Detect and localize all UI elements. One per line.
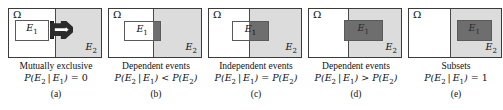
- caption-c: Independent eventsP(E2 | E1) = P(E2)(c): [208, 61, 304, 101]
- event-e1-box-b: E1: [124, 21, 161, 41]
- caption-d: Dependent eventsP(E2 | E1) > P(E2)(d): [308, 61, 404, 101]
- event-e2-label-a: E2: [86, 42, 97, 56]
- omega-label-a: Ω: [13, 10, 21, 20]
- conditional-probability-figure: ΩE2E1Mutually exclusiveP(E2 | E1) = 0(a)…: [0, 0, 503, 110]
- caption-title-b: Dependent events: [108, 61, 204, 72]
- caption-letter-c: (c): [208, 88, 304, 101]
- sample-space-d: ΩE2E1: [308, 8, 402, 58]
- caption-e: SubsetsP(E2 | E1) = 1(e): [408, 61, 503, 101]
- panel-e: ΩE2E1SubsetsP(E2 | E1) = 1(e): [408, 0, 503, 110]
- event-e1-label-e: E1: [469, 23, 480, 37]
- caption-a: Mutually exclusiveP(E2 | E1) = 0(a): [8, 61, 104, 101]
- sample-space-c: ΩE2E1: [208, 8, 302, 58]
- event-e1-box-c: E1: [232, 21, 269, 41]
- event-e1-label-a: E1: [26, 23, 37, 37]
- panel-a: ΩE2E1Mutually exclusiveP(E2 | E1) = 0(a): [8, 0, 104, 110]
- caption-letter-e: (e): [408, 88, 503, 101]
- arrow-right-icon-a: [50, 21, 73, 38]
- omega-label-b: Ω: [113, 10, 121, 20]
- caption-title-a: Mutually exclusive: [8, 61, 104, 72]
- event-e1-label-d: E1: [358, 23, 369, 37]
- caption-title-c: Independent events: [208, 61, 304, 72]
- event-e2-label-c: E2: [286, 42, 297, 56]
- caption-formula-d: P(E2 | E1) > P(E2): [308, 72, 404, 88]
- omega-label-d: Ω: [313, 10, 321, 20]
- caption-letter-d: (d): [308, 88, 404, 101]
- panel-b: ΩE2E1Dependent eventsP(E2 | E1) < P(E2)(…: [108, 0, 204, 110]
- event-e1-box-e: E1: [457, 20, 492, 41]
- caption-formula-e: P(E2 | E1) = 1: [408, 72, 503, 88]
- caption-title-d: Dependent events: [308, 61, 404, 72]
- separation-arrow-a: [50, 21, 73, 38]
- sample-space-a: ΩE2E1: [8, 8, 102, 58]
- caption-formula-a: P(E2 | E1) = 0: [8, 72, 104, 88]
- event-e2-label-b: E2: [186, 42, 197, 56]
- event-e1-label-c: E1: [245, 24, 256, 38]
- event-e2-label-e: E2: [486, 42, 497, 56]
- panel-c: ΩE2E1Independent eventsP(E2 | E1) = P(E2…: [208, 0, 304, 110]
- event-e1-box-a: E1: [15, 20, 50, 41]
- event-e2-label-d: E2: [386, 42, 397, 56]
- panel-d: ΩE2E1Dependent eventsP(E2 | E1) > P(E2)(…: [308, 0, 404, 110]
- caption-letter-b: (b): [108, 88, 204, 101]
- caption-formula-c: P(E2 | E1) = P(E2): [208, 72, 304, 88]
- caption-formula-b: P(E2 | E1) < P(E2): [108, 72, 204, 88]
- event-e1-label-b: E1: [136, 24, 147, 38]
- omega-label-e: Ω: [413, 10, 421, 20]
- caption-title-e: Subsets: [408, 61, 503, 72]
- omega-label-c: Ω: [213, 10, 221, 20]
- caption-b: Dependent eventsP(E2 | E1) < P(E2)(b): [108, 61, 204, 101]
- event-e1-box-d: E1: [344, 20, 383, 41]
- sample-space-b: ΩE2E1: [108, 8, 202, 58]
- caption-letter-a: (a): [8, 88, 104, 101]
- sample-space-e: ΩE2E1: [408, 8, 502, 58]
